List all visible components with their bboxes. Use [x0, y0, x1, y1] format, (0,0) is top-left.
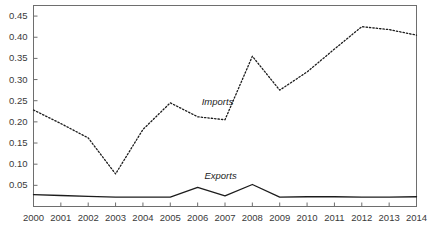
series-label-imports: Imports [202, 96, 234, 107]
y-tick-label: 0.30 [9, 75, 28, 85]
x-tick-label: 2014 [401, 213, 432, 223]
y-tick-label: 0.05 [9, 180, 28, 190]
series-label-exports: Exports [204, 170, 236, 181]
y-tick-label: 0.40 [9, 32, 28, 42]
y-tick-label: 0.35 [9, 53, 28, 63]
y-tick-label: 0.20 [9, 117, 28, 127]
y-tick-label: 0.15 [9, 138, 28, 148]
y-tick-label: 0.25 [9, 96, 28, 106]
y-tick-label: 0.45 [9, 11, 28, 21]
y-tick-label: 0.10 [9, 159, 28, 169]
